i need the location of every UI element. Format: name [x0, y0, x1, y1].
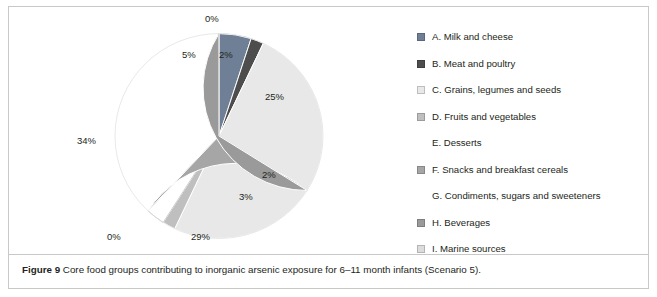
legend-item-f[interactable]: F. Snacks and breakfast cereals: [417, 164, 637, 176]
slice-label-grains-legumes-and-seeds: 25%: [265, 91, 284, 102]
legend-label-g: G. Condiments, sugars and sweeteners: [432, 190, 601, 202]
legend-swatch-e-icon: [417, 139, 425, 147]
pie-graphic: 0% 5% 2% 25% 2% 3% 29% 0% 34%: [69, 21, 369, 251]
legend-label-a: A. Milk and cheese: [432, 31, 513, 43]
legend-swatch-h-icon: [417, 219, 425, 227]
slice-label-snacks-and-breakfast-cereals: 29%: [191, 231, 210, 242]
chart-legend: A. Milk and cheese B. Meat and poultry C…: [417, 31, 637, 270]
legend-label-b: B. Meat and poultry: [432, 58, 515, 70]
figure-caption: Figure 9 Core food groups contributing t…: [22, 263, 637, 276]
figure-caption-text: Core food groups contributing to inorgan…: [63, 264, 481, 275]
legend-label-f: F. Snacks and breakfast cereals: [432, 164, 568, 176]
figure-container: 0% 5% 2% 25% 2% 3% 29% 0% 34% A. Milk an…: [8, 6, 649, 289]
legend-label-e: E. Desserts: [432, 137, 482, 149]
legend-swatch-b-icon: [417, 60, 425, 68]
legend-item-h[interactable]: H. Beverages: [417, 217, 637, 229]
legend-swatch-i-icon: [417, 245, 425, 253]
legend-label-d: D. Fruits and vegetables: [432, 111, 536, 123]
slice-label-desserts: 3%: [239, 191, 253, 202]
slice-label-meat-and-poultry: 2%: [219, 49, 233, 60]
slice-label-beverages: 34%: [77, 135, 96, 146]
slice-label-condiments: 0%: [107, 231, 121, 242]
slice-label-marine-sources: 0%: [205, 13, 219, 24]
slice-label-milk-and-cheese: 5%: [182, 49, 196, 60]
legend-item-g[interactable]: G. Condiments, sugars and sweeteners: [417, 190, 637, 202]
legend-swatch-d-icon: [417, 113, 425, 121]
pie-chart: 0% 5% 2% 25% 2% 3% 29% 0% 34% A. Milk an…: [9, 7, 648, 255]
legend-item-d[interactable]: D. Fruits and vegetables: [417, 111, 637, 123]
legend-item-c[interactable]: C. Grains, legumes and seeds: [417, 84, 637, 96]
legend-item-e[interactable]: E. Desserts: [417, 137, 637, 149]
caption-divider: [9, 254, 648, 255]
slice-label-fruits-and-vegetables: 2%: [262, 169, 276, 180]
legend-label-h: H. Beverages: [432, 217, 490, 229]
legend-item-b[interactable]: B. Meat and poultry: [417, 58, 637, 70]
legend-label-c: C. Grains, legumes and seeds: [432, 84, 561, 96]
figure-caption-label: Figure 9: [22, 264, 60, 275]
legend-swatch-f-icon: [417, 166, 425, 174]
legend-swatch-a-icon: [417, 33, 425, 41]
legend-swatch-g-icon: [417, 192, 425, 200]
figure-page: 0% 5% 2% 25% 2% 3% 29% 0% 34% A. Milk an…: [0, 0, 657, 297]
legend-swatch-c-icon: [417, 86, 425, 94]
legend-item-a[interactable]: A. Milk and cheese: [417, 31, 637, 43]
